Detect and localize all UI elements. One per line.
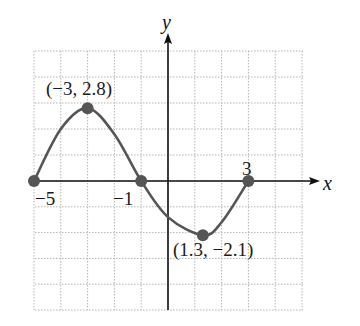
axes <box>35 33 320 310</box>
zero-label-neg1: −1 <box>113 189 133 208</box>
data-point <box>82 102 94 114</box>
min-point-label: (1.3, −2.1) <box>173 240 253 259</box>
y-axis-label: y <box>162 12 171 32</box>
zero-label-3: 3 <box>242 159 252 178</box>
function-graph <box>0 0 360 326</box>
x-axis-label: x <box>323 173 332 193</box>
data-point <box>135 175 147 187</box>
zero-label-neg5: −5 <box>35 189 55 208</box>
max-point-label: (−3, 2.8) <box>46 79 112 98</box>
data-point <box>28 175 40 187</box>
